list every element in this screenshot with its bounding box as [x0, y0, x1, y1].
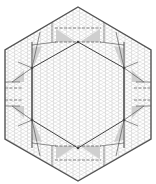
vertex-node: [77, 41, 80, 44]
vertex-node: [31, 67, 34, 70]
vertex-node: [123, 67, 126, 70]
mountain-fold-line: [124, 120, 138, 126]
mountain-fold-line: [32, 42, 56, 45]
vertex-node: [77, 147, 80, 150]
vertical-lines: [32, 42, 124, 148]
vertex-node: [123, 119, 126, 122]
mountain-fold-line: [18, 120, 32, 126]
crease-pattern-diagram: [0, 0, 156, 184]
inner-hexagon: [32, 42, 124, 148]
vertex-nodes: [31, 41, 126, 150]
vertex-node: [31, 119, 34, 122]
